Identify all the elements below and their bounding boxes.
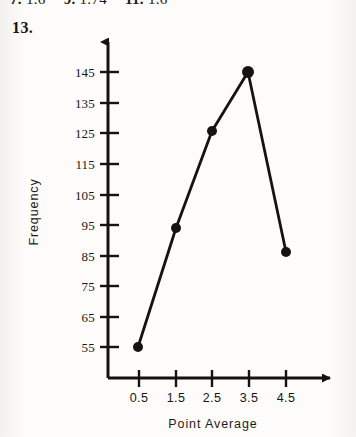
y-axis-tick-labels: 145 135 125 115 105 95 85 75 65 55 (75, 65, 95, 355)
y-tick-label-125: 125 (75, 126, 95, 141)
x-tick-label-1-5: 1.5 (167, 391, 185, 405)
chart-canvas: 145 135 125 115 105 95 85 75 65 55 0.5 1… (0, 0, 356, 437)
data-point-4 (281, 247, 291, 257)
y-tick-label-105: 105 (75, 188, 95, 203)
data-point-0 (133, 342, 143, 352)
x-axis-tick-labels: 0.5 1.5 2.5 3.5 4.5 (130, 391, 295, 405)
y-tick-label-135: 135 (75, 96, 95, 111)
data-point-3 (242, 66, 254, 78)
y-tick-label-65: 65 (82, 310, 95, 325)
data-point-1 (171, 223, 181, 233)
y-tick-label-55: 55 (82, 340, 95, 355)
data-point-2 (207, 126, 217, 136)
y-tick-label-85: 85 (82, 249, 95, 264)
y-tick-label-115: 115 (75, 157, 95, 172)
x-tick-label-3-5: 3.5 (240, 391, 258, 405)
x-axis-title: Point Average (168, 417, 257, 431)
y-tick-label-145: 145 (75, 65, 95, 80)
x-tick-label-2-5: 2.5 (203, 391, 221, 405)
data-series-line (138, 72, 286, 347)
data-point-markers (133, 66, 291, 352)
y-tick-label-75: 75 (82, 279, 95, 294)
frequency-polygon-figure: 145 135 125 115 105 95 85 75 65 55 0.5 1… (0, 0, 356, 437)
y-tick-label-95: 95 (82, 218, 95, 233)
y-axis-title: Frequency (27, 178, 41, 245)
x-tick-label-4-5: 4.5 (277, 391, 295, 405)
x-tick-label-0-5: 0.5 (130, 391, 148, 405)
